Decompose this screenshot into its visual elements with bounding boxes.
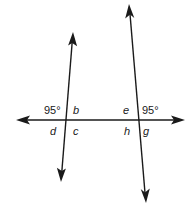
angle-label-c: c bbox=[73, 125, 79, 137]
angle-label-95-left: 95° bbox=[44, 104, 61, 116]
angle-label-g: g bbox=[143, 125, 150, 137]
angle-label-b: b bbox=[73, 104, 79, 116]
angle-diagram: 95° b d c e 95° h g bbox=[0, 0, 189, 208]
angle-label-e: e bbox=[123, 104, 129, 116]
angle-label-h: h bbox=[124, 125, 130, 137]
angle-label-d: d bbox=[50, 125, 57, 137]
angle-label-95-right: 95° bbox=[142, 104, 159, 116]
horizontal-line bbox=[16, 116, 185, 125]
